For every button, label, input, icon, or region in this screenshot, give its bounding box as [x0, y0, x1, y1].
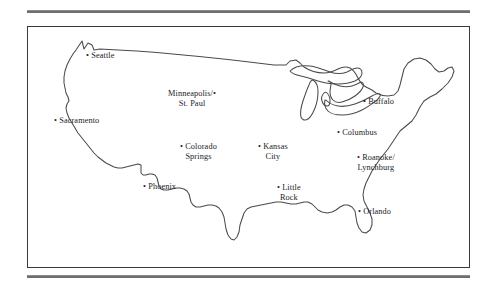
- city-name: Buffalo: [368, 97, 394, 106]
- city-name: Minneapolis/: [168, 89, 213, 98]
- city-label-minneapolis-st-paul: Minneapolis/• St. Paul: [168, 89, 216, 109]
- city-name-line2: Springs: [180, 152, 217, 162]
- city-marker-dot: •: [143, 182, 146, 191]
- city-marker-dot: •: [86, 51, 89, 60]
- city-marker-dot: •: [357, 153, 360, 162]
- city-label-buffalo: • Buffalo: [363, 97, 394, 107]
- city-label-roanoke-lynchburg: • Roanoke/ Lynchburg: [357, 153, 395, 173]
- city-name: Phoenix: [148, 182, 176, 191]
- city-label-phoenix: • Phoenix: [143, 182, 176, 192]
- city-marker-dot: •: [258, 142, 261, 151]
- city-label-seattle: • Seattle: [86, 51, 114, 61]
- map-frame: • Seattle • Sacramento Minneapolis/• St.…: [27, 26, 470, 268]
- city-label-little-rock: • Little Rock: [277, 183, 301, 203]
- bottom-rule: [27, 275, 470, 278]
- city-name-line2: Rock: [277, 193, 301, 203]
- city-label-sacramento: • Sacramento: [54, 116, 99, 126]
- lake-ontario-outline: [322, 92, 330, 106]
- city-name: Kansas: [263, 142, 288, 151]
- city-label-kansas-city: • Kansas City: [258, 142, 288, 162]
- city-label-colorado-springs: • Colorado Springs: [180, 142, 217, 162]
- city-name: Colorado: [185, 142, 217, 151]
- city-marker-dot: •: [54, 116, 57, 125]
- city-name: Roanoke/: [362, 153, 395, 162]
- city-name: Little: [282, 183, 301, 192]
- city-marker-dot: •: [213, 89, 216, 98]
- city-name-line2: City: [258, 152, 288, 162]
- city-name-line2: Lynchburg: [357, 163, 395, 173]
- city-name: Orlando: [363, 207, 391, 216]
- city-marker-dot: •: [358, 207, 361, 216]
- city-marker-dot: •: [363, 97, 366, 106]
- city-name: Sacramento: [59, 116, 99, 125]
- figure-page: • Seattle • Sacramento Minneapolis/• St.…: [0, 0, 493, 285]
- us-map-outline: [28, 27, 471, 269]
- city-marker-dot: •: [337, 128, 340, 137]
- lake-michigan-outline: [301, 80, 318, 120]
- city-name: Seattle: [91, 51, 114, 60]
- city-label-columbus: • Columbus: [337, 128, 377, 138]
- top-rule: [27, 10, 470, 13]
- city-marker-dot: •: [277, 183, 280, 192]
- city-marker-dot: •: [180, 142, 183, 151]
- city-label-orlando: • Orlando: [358, 207, 391, 217]
- city-name: Columbus: [342, 128, 377, 137]
- us-mainland-outline: [64, 41, 454, 240]
- city-name-line2: St. Paul: [168, 99, 216, 109]
